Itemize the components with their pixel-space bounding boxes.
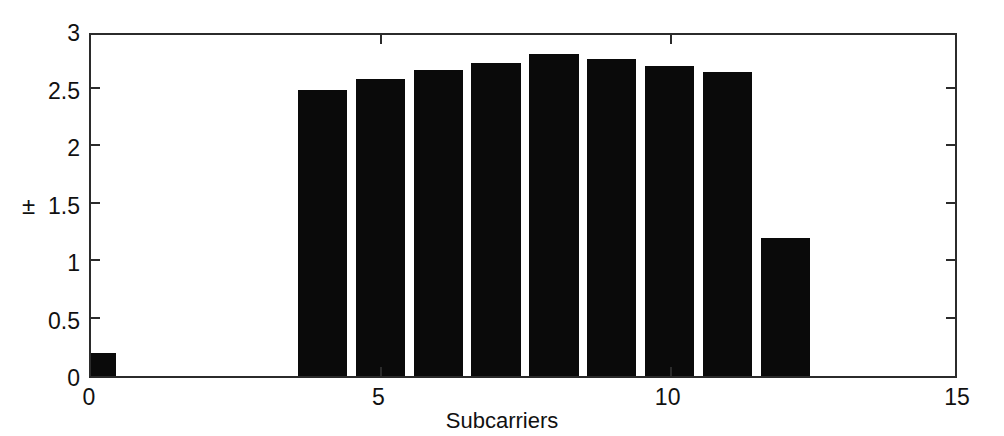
- bar: [761, 238, 810, 376]
- bar: [356, 79, 405, 376]
- y-axis-tick: [91, 144, 100, 146]
- x-axis-tick-label: 15: [944, 386, 970, 409]
- bar: [471, 63, 520, 376]
- y-axis-tick: [91, 259, 100, 261]
- bar: [298, 90, 347, 376]
- y-axis-tick-label: 2: [67, 137, 89, 160]
- y-axis-tick-label: 1: [67, 252, 89, 275]
- bars-layer: [91, 35, 955, 376]
- bar: [529, 54, 578, 376]
- x-axis-tick-top: [380, 35, 382, 44]
- bar: [587, 59, 636, 376]
- bar-chart-figure: 00.511.522.53 051015 ± Subcarriers: [0, 0, 1004, 436]
- y-axis-title: ±: [22, 194, 35, 218]
- x-axis-tick: [380, 367, 382, 376]
- x-axis-tick-label: 5: [372, 386, 385, 409]
- y-axis-tick-labels: 00.511.522.53: [0, 33, 89, 378]
- bar: [91, 353, 116, 376]
- x-axis-title: Subcarriers: [0, 410, 1004, 432]
- y-axis-tick-label: 2.5: [48, 79, 89, 102]
- x-axis-tick-label: 0: [83, 386, 96, 409]
- y-axis-tick-right: [946, 87, 955, 89]
- plot-area: [89, 33, 957, 378]
- y-axis-tick: [91, 202, 100, 204]
- y-axis-tick-right: [946, 317, 955, 319]
- bar: [703, 72, 752, 376]
- y-axis-tick: [91, 87, 100, 89]
- y-axis-tick-right: [946, 144, 955, 146]
- y-axis-tick-label: 0.5: [48, 309, 89, 332]
- y-axis-tick-right: [946, 259, 955, 261]
- y-axis-tick: [91, 317, 100, 319]
- y-axis-tick-right: [946, 202, 955, 204]
- bar: [414, 70, 463, 376]
- x-axis-tick-label: 10: [655, 386, 681, 409]
- y-axis-tick-label: 1.5: [48, 194, 89, 217]
- x-axis-tick-top: [670, 35, 672, 44]
- y-axis-tick-label: 3: [67, 22, 89, 45]
- bar: [645, 66, 694, 377]
- x-axis-tick: [670, 367, 672, 376]
